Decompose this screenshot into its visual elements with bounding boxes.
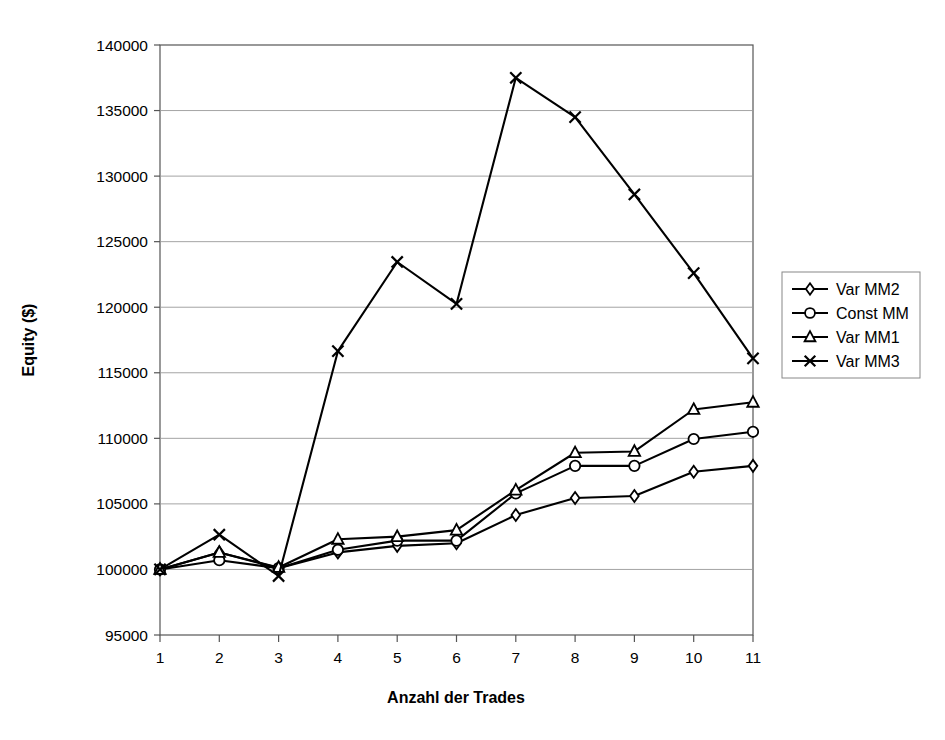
y-tick-label: 95000 bbox=[105, 627, 148, 644]
data-point-circle bbox=[629, 461, 639, 471]
y-tick-label: 100000 bbox=[96, 561, 148, 578]
y-tick-label: 120000 bbox=[96, 299, 148, 316]
y-tick-label: 110000 bbox=[97, 430, 148, 447]
data-point-circle bbox=[451, 535, 461, 545]
data-point-circle bbox=[570, 461, 580, 471]
x-tick-label: 1 bbox=[156, 649, 165, 666]
x-tick-label: 9 bbox=[630, 649, 639, 666]
equity-line-chart: 9500010000010500011000011500012000012500… bbox=[0, 0, 945, 740]
x-tick-label: 6 bbox=[452, 649, 461, 666]
data-point-circle bbox=[689, 434, 699, 444]
x-tick-label: 5 bbox=[393, 649, 402, 666]
y-tick-label: 140000 bbox=[96, 37, 148, 54]
x-tick-label: 2 bbox=[215, 649, 224, 666]
x-tick-label: 8 bbox=[571, 649, 580, 666]
y-tick-label: 115000 bbox=[97, 364, 148, 381]
legend-label: Var MM2 bbox=[836, 281, 900, 298]
x-tick-label: 4 bbox=[334, 649, 343, 666]
data-point-circle bbox=[748, 427, 758, 437]
chart-legend: Var MM2Const MMVar MM1Var MM3 bbox=[782, 272, 920, 378]
y-tick-label: 135000 bbox=[96, 102, 148, 119]
legend-label: Var MM3 bbox=[836, 353, 900, 370]
y-tick-label: 105000 bbox=[96, 495, 148, 512]
y-tick-label: 125000 bbox=[96, 233, 148, 250]
legend-label: Const MM bbox=[836, 305, 909, 322]
y-axis-title: Equity ($) bbox=[20, 304, 37, 377]
x-tick-label: 11 bbox=[745, 649, 761, 666]
x-tick-label: 7 bbox=[511, 649, 520, 666]
y-tick-label: 130000 bbox=[96, 168, 148, 185]
legend-label: Var MM1 bbox=[836, 329, 900, 346]
data-point-circle bbox=[333, 545, 343, 555]
x-tick-label: 10 bbox=[685, 649, 703, 666]
chart-container: 9500010000010500011000011500012000012500… bbox=[0, 0, 945, 740]
x-tick-label: 3 bbox=[274, 649, 283, 666]
x-axis-title: Anzahl der Trades bbox=[387, 689, 525, 706]
data-point-circle bbox=[805, 308, 815, 318]
